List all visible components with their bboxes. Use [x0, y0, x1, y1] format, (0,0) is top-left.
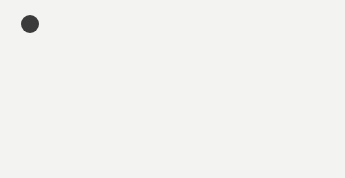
step-number-badge — [21, 15, 39, 33]
